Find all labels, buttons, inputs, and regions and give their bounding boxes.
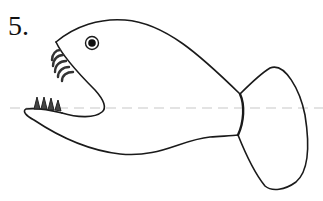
fish-drawing [0,0,323,201]
upper-teeth [52,50,73,81]
tail-joint [238,94,243,135]
tail-fin-outline [238,67,308,189]
lower-teeth [34,97,61,111]
eye-icon [86,37,99,50]
lower-jaw-outline [24,109,238,155]
fish-back-outline [56,20,240,94]
